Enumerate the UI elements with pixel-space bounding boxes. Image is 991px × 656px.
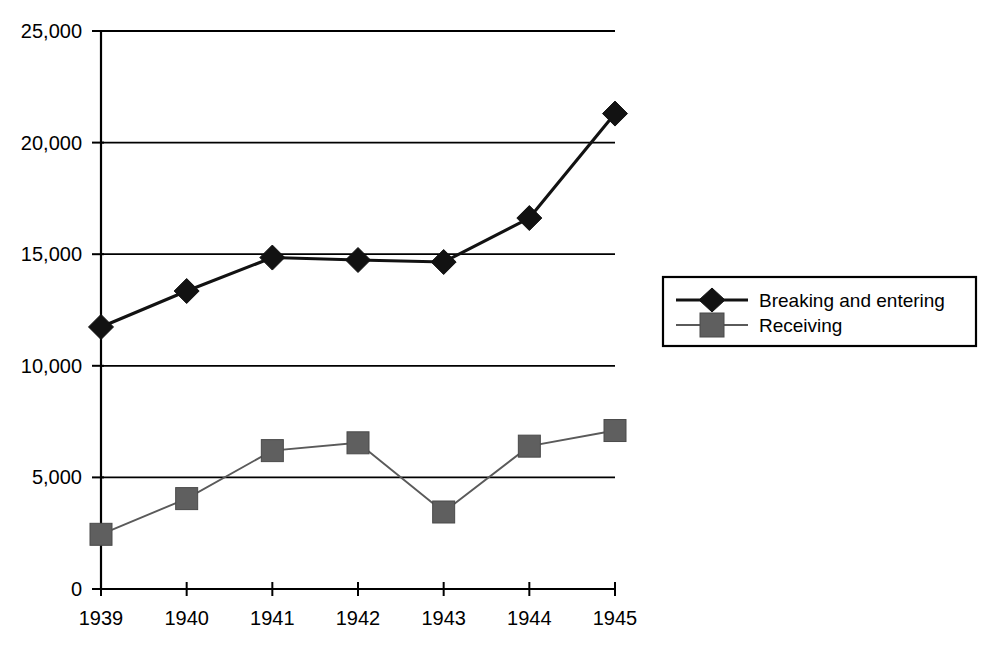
x-axis-tick-label: 1945 <box>593 607 638 629</box>
y-axis-tick-label: 15,000 <box>21 243 82 265</box>
data-point-square <box>261 440 283 462</box>
legend-item-breaking-and-entering[interactable]: Breaking and entering <box>676 288 945 312</box>
x-axis-tick-label: 1943 <box>421 607 466 629</box>
chart-container: 05,00010,00015,00020,00025,000 193919401… <box>0 0 991 656</box>
x-axis-tick-label: 1942 <box>336 607 381 629</box>
x-axis-tick-label: 1941 <box>250 607 295 629</box>
y-axis-tick-label: 10,000 <box>21 355 82 377</box>
y-axis-tick-label: 5,000 <box>32 466 82 488</box>
data-point-square <box>90 523 112 545</box>
legend-item-receiving[interactable]: Receiving <box>676 313 842 337</box>
x-axis-tick-label: 1939 <box>79 607 124 629</box>
x-axis-tick-label: 1940 <box>164 607 209 629</box>
square-marker-icon <box>700 313 724 337</box>
x-axis-tick-label: 1944 <box>507 607 552 629</box>
line-chart: 05,00010,00015,00020,00025,000 193919401… <box>0 0 991 656</box>
data-point-square <box>176 488 198 510</box>
data-point-square <box>433 501 455 523</box>
data-point-square <box>604 420 626 442</box>
legend-label-secondary: Receiving <box>759 315 842 336</box>
data-point-square <box>347 432 369 454</box>
y-axis-tick-label: 0 <box>71 578 82 600</box>
legend-label-primary: Breaking and entering <box>759 290 945 311</box>
y-axis-tick-label: 20,000 <box>21 132 82 154</box>
data-point-square <box>518 435 540 457</box>
chart-legend: Breaking and entering Receiving <box>663 277 976 346</box>
y-axis-tick-label: 25,000 <box>21 20 82 42</box>
